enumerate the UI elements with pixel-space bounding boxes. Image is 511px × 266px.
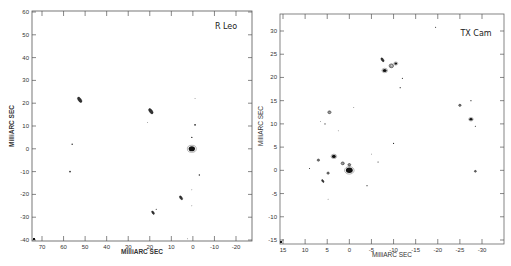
maser-spot <box>338 130 339 131</box>
x-tick-label: 15 <box>280 247 287 253</box>
maser-spot <box>187 238 188 239</box>
x-tick-label: -30 <box>478 247 487 253</box>
x-tick-label: 10 <box>302 247 309 253</box>
maser-spot <box>195 98 196 99</box>
maser-spot <box>189 146 195 151</box>
maser-spot <box>71 144 72 145</box>
y-tick-label: -40 <box>20 237 29 243</box>
maser-spot <box>320 121 321 122</box>
maser-spot <box>400 87 401 88</box>
y-tick-label: 60 <box>22 9 29 15</box>
x-tick-label: -20 <box>232 244 241 250</box>
y-tick-label: -10 <box>20 169 29 175</box>
y-tick-label: 5 <box>274 144 278 150</box>
maser-spot <box>151 210 155 214</box>
y-tick-label: 40 <box>22 55 29 61</box>
x-tick-label: 0 <box>191 244 195 250</box>
x-tick-label: -20 <box>433 247 442 253</box>
y-tick-label: -30 <box>20 214 29 220</box>
x-axis-title: MilliARC SEC <box>372 251 412 258</box>
y-tick-label: 15 <box>270 98 277 104</box>
maser-spot <box>366 185 367 186</box>
maser-spot <box>191 189 192 190</box>
maser-spot <box>435 27 436 28</box>
y-tick-label: 50 <box>22 32 29 38</box>
y-tick-label: -10 <box>268 214 277 220</box>
y-tick-label: 10 <box>22 123 29 129</box>
x-tick-label: -25 <box>456 247 465 253</box>
plot-frame <box>32 11 252 241</box>
y-tick-labels: 302520151050-5-10-15 <box>268 28 277 243</box>
maser-spot <box>371 154 372 155</box>
x-tick-label: -10 <box>210 244 219 250</box>
x-tick-label: 5 <box>326 247 330 253</box>
maser-spot <box>147 122 148 123</box>
x-tick-label: -15 <box>411 247 420 253</box>
maser-spot <box>394 62 397 64</box>
y-axis-title: MilliARC SEC <box>257 106 264 146</box>
maser-spot <box>77 96 83 103</box>
maser-spot <box>179 195 183 200</box>
maser-spot <box>332 155 336 158</box>
maser-spot <box>378 161 379 162</box>
maser-spot <box>328 199 329 200</box>
y-tick-label: 20 <box>22 100 29 106</box>
maser-spots <box>33 96 200 240</box>
y-tick-label: 25 <box>270 51 277 57</box>
y-tick-label: 30 <box>270 28 277 34</box>
maser-spot <box>156 209 157 210</box>
plot-frame <box>280 14 504 244</box>
x-tick-label: 40 <box>103 244 110 250</box>
x-tick-label: 0 <box>348 247 352 253</box>
maser-spot <box>469 118 472 121</box>
y-tick-labels: 6050403020100-10-20-30-40 <box>20 9 29 243</box>
y-tick-label: -5 <box>272 191 278 197</box>
maser-spot <box>191 205 192 206</box>
panel-title: TX Cam <box>459 29 491 38</box>
maser-spot <box>353 107 354 108</box>
tick-marks <box>280 14 504 244</box>
maser-spots <box>280 27 476 243</box>
y-tick-label: -15 <box>268 237 277 243</box>
panel-tx-cam: 302520151050-5-10-15 151050-5-10-15-20-2… <box>257 14 504 258</box>
x-tick-label: 60 <box>60 244 67 250</box>
maser-spot <box>321 179 324 183</box>
x-tick-label: 50 <box>82 244 89 250</box>
maser-spot <box>69 171 71 173</box>
maser-spot <box>148 108 154 115</box>
maser-spot <box>191 137 192 138</box>
figure-canvas: 6050403020100-10-20-30-40 70605040302010… <box>0 0 511 266</box>
maser-spot <box>324 123 325 124</box>
y-tick-label: -20 <box>20 191 29 197</box>
y-tick-label: 30 <box>22 77 29 83</box>
y-tick-label: 0 <box>274 167 278 173</box>
maser-spot <box>194 124 196 126</box>
maser-spot <box>470 100 471 101</box>
maser-spot <box>389 64 393 68</box>
tick-marks <box>32 11 252 241</box>
maser-spot <box>475 126 476 127</box>
y-axis-title: MilliARC SEC <box>8 105 15 147</box>
x-tick-label: 10 <box>168 244 175 250</box>
y-tick-label: 20 <box>270 74 277 80</box>
maser-spot <box>346 168 353 173</box>
x-axis-title: MilliARC SEC <box>121 248 163 255</box>
y-tick-label: 0 <box>26 146 30 152</box>
x-tick-label: 70 <box>39 244 46 250</box>
panel-r-leo: 6050403020100-10-20-30-40 70605040302010… <box>8 9 252 255</box>
y-tick-label: 10 <box>270 121 277 127</box>
maser-spot <box>393 143 394 144</box>
panel-title: R Leo <box>215 22 237 31</box>
maser-spot <box>383 69 387 72</box>
maser-spot <box>380 57 384 62</box>
maser-spot <box>402 78 403 79</box>
maser-spot <box>309 168 310 169</box>
maser-spot <box>199 174 200 175</box>
